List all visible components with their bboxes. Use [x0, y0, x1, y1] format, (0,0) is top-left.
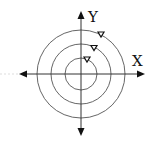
middle-direction-marker-icon [91, 46, 97, 51]
y-axis-up-arrow-icon [78, 11, 85, 19]
x-axis-label: X [132, 52, 143, 70]
x-axis-left-arrow-icon [19, 71, 27, 78]
inner-direction-marker-icon [84, 57, 90, 62]
y-axis-label: Y [87, 8, 99, 26]
coordinate-diagram: Y X [0, 0, 151, 144]
y-axis-down-arrow-icon [78, 128, 85, 136]
x-axis-right-arrow-icon [137, 71, 145, 78]
